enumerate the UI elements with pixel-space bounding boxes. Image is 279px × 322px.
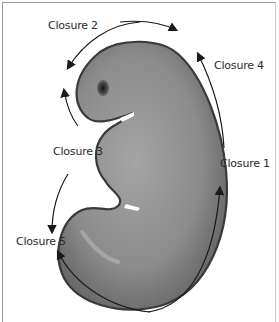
eye-icon	[97, 80, 109, 96]
label-closure-3: Closure 3	[53, 145, 103, 158]
label-closure-5: Closure 5	[16, 235, 66, 248]
arrow-closure-2-right	[120, 21, 176, 30]
label-closure-4: Closure 4	[214, 59, 264, 72]
label-closure-2: Closure 2	[48, 19, 98, 32]
label-closure-1: Closure 1	[220, 157, 270, 170]
